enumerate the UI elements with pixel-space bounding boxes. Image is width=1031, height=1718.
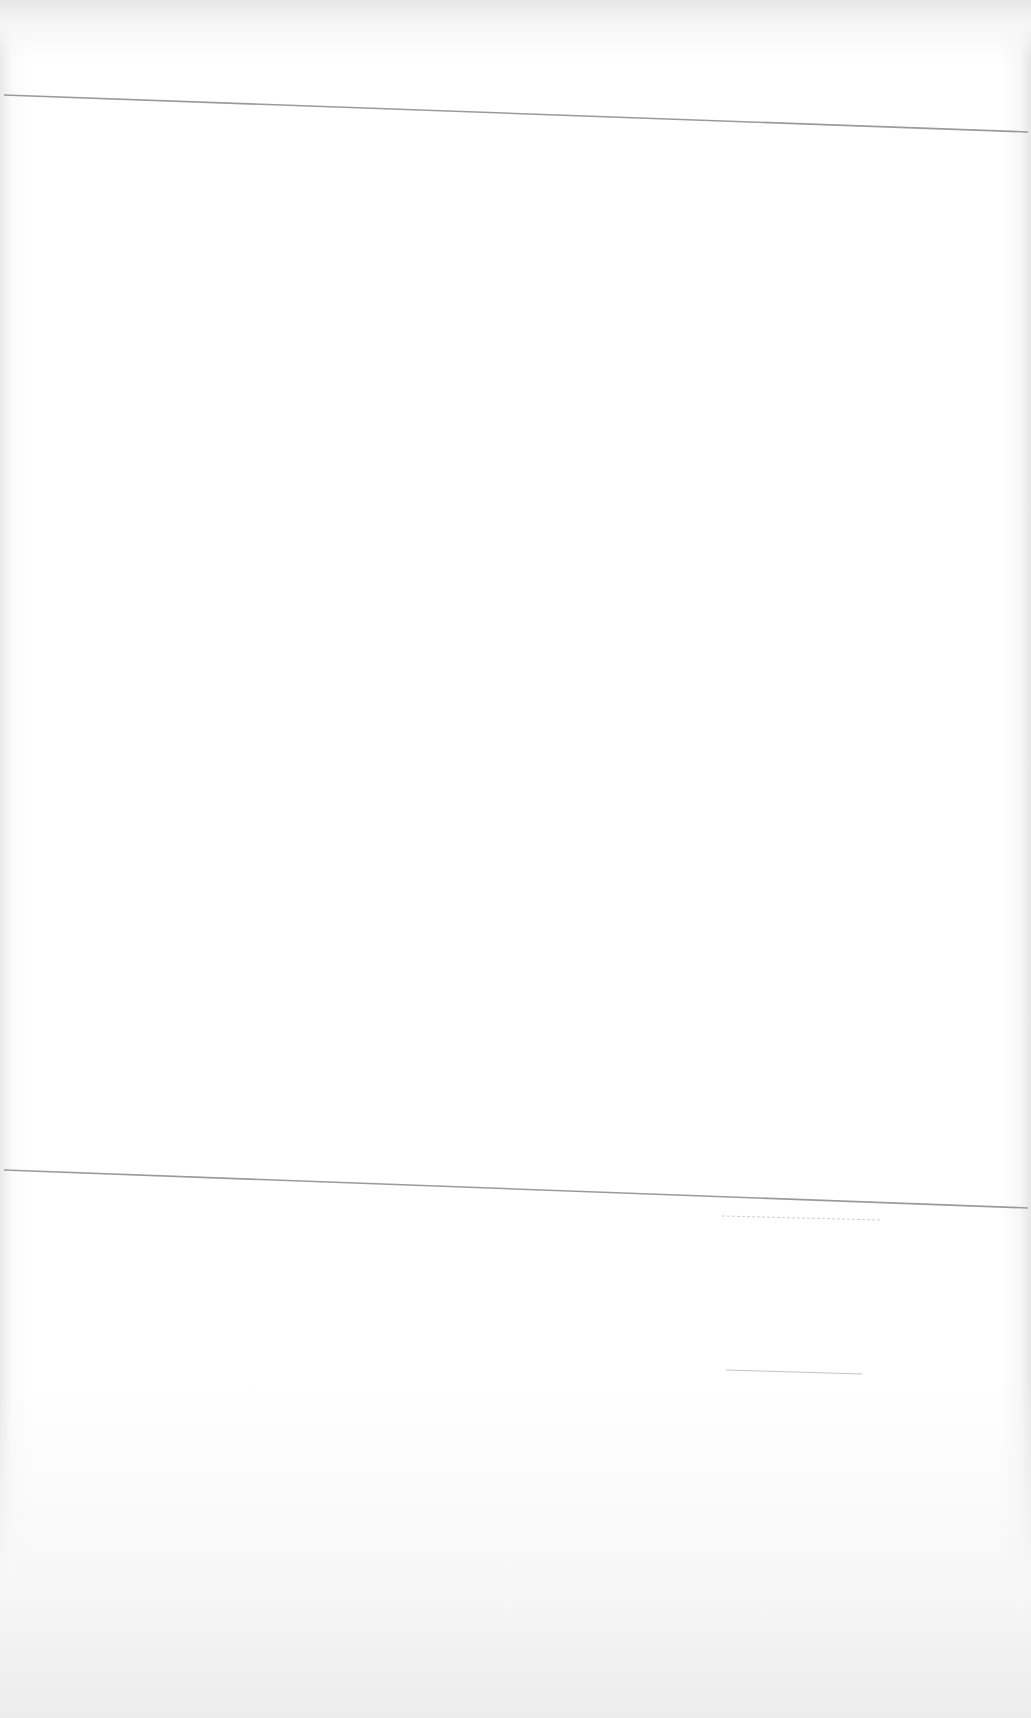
faint-blank-line-lower: [726, 1370, 862, 1374]
scanned-page: [0, 0, 1031, 1718]
bottom-horizontal-rule: [4, 1170, 1028, 1208]
top-horizontal-rule: [4, 95, 1028, 132]
page-rules: [0, 0, 1031, 1718]
faint-blank-line-upper: [722, 1216, 880, 1220]
